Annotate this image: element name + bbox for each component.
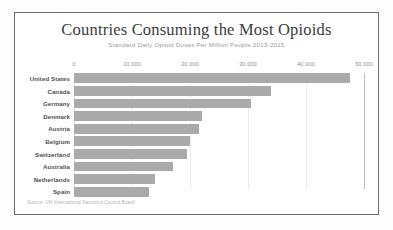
bar-category-label: Netherlands bbox=[34, 174, 70, 185]
chart-frame: Countries Consuming the Most Opioids Sta… bbox=[14, 12, 379, 215]
bar-fill bbox=[74, 86, 271, 96]
bar-category-label: Canada bbox=[47, 86, 70, 97]
x-tick-label: 50,000 bbox=[355, 61, 373, 67]
bar-series: United StatesCanadaGermanyDenmarkAustria… bbox=[74, 73, 364, 189]
bar-row: United States bbox=[74, 73, 364, 84]
x-tick-label: 20,000 bbox=[181, 61, 199, 67]
bar-category-label: Australia bbox=[43, 161, 70, 172]
bar-row: Belgium bbox=[74, 136, 364, 147]
bar-row: Austria bbox=[74, 123, 364, 134]
bar-row: Canada bbox=[74, 86, 364, 97]
bar-fill bbox=[74, 99, 251, 109]
source-note: Source: UN International Narcotics Contr… bbox=[27, 200, 135, 205]
x-axis-tick-labels: 010,00020,00030,00040,00050,000 bbox=[74, 61, 364, 73]
bar-row: Spain bbox=[74, 186, 364, 197]
bar-fill bbox=[74, 162, 173, 172]
bar-row: Switzerland bbox=[74, 149, 364, 160]
bar-category-label: Austria bbox=[48, 123, 70, 134]
bar-category-label: Germany bbox=[43, 98, 70, 109]
bar-category-label: Belgium bbox=[45, 136, 70, 147]
bar-category-label: Spain bbox=[53, 186, 70, 197]
bar-row: Netherlands bbox=[74, 174, 364, 185]
bar-row: Australia bbox=[74, 161, 364, 172]
bar-category-label: United States bbox=[30, 73, 70, 84]
bar-fill bbox=[74, 174, 155, 184]
bar-fill bbox=[74, 149, 187, 159]
bar-category-label: Denmark bbox=[43, 111, 70, 122]
bar-category-label: Switzerland bbox=[35, 149, 70, 160]
bar-fill bbox=[74, 111, 202, 121]
plot-area: 010,00020,00030,00040,00050,000 United S… bbox=[74, 61, 364, 189]
x-tick-label: 0 bbox=[72, 61, 75, 67]
chart-subtitle: Standard Daily Opioid Doses Per Million … bbox=[15, 41, 378, 48]
x-tick-label: 40,000 bbox=[297, 61, 315, 67]
bar-row: Denmark bbox=[74, 111, 364, 122]
bar-fill bbox=[74, 136, 190, 146]
bar-row: Germany bbox=[74, 98, 364, 109]
chart-card: Countries Consuming the Most Opioids Sta… bbox=[15, 13, 378, 214]
bar-fill bbox=[74, 73, 350, 83]
chart-page: Countries Consuming the Most Opioids Sta… bbox=[0, 0, 393, 230]
bar-fill bbox=[74, 187, 149, 197]
bar-fill bbox=[74, 124, 199, 134]
x-tick-label: 10,000 bbox=[123, 61, 141, 67]
gridline bbox=[364, 73, 365, 189]
chart-title: Countries Consuming the Most Opioids bbox=[15, 21, 378, 39]
x-tick-label: 30,000 bbox=[239, 61, 257, 67]
